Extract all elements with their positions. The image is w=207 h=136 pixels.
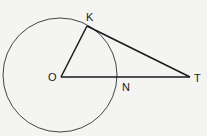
circle-o: [3, 18, 117, 132]
segment-kt: [87, 26, 190, 77]
geometry-diagram: K O N T: [0, 0, 207, 136]
label-t: T: [194, 72, 201, 84]
label-k: K: [86, 11, 94, 23]
label-o: O: [48, 71, 57, 83]
label-n: N: [122, 81, 130, 93]
segment-ok: [61, 26, 87, 77]
